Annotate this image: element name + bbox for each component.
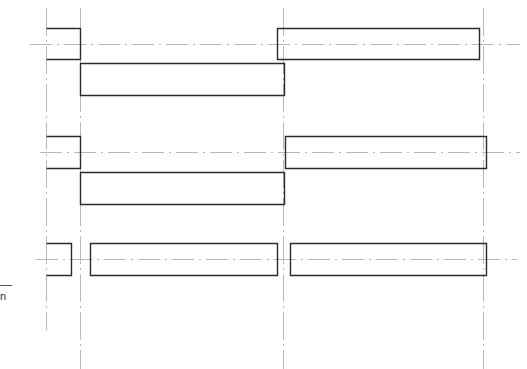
block-outline-row-2 [81, 173, 285, 205]
drawing-canvas [0, 0, 527, 369]
block-outline-row-1 [81, 64, 285, 96]
vertical-centerlines [47, 8, 484, 369]
edge-label-fragment: n [0, 290, 6, 302]
horizontal-centerlines [30, 45, 520, 260]
